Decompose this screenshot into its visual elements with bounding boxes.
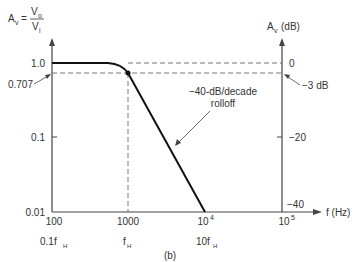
svg-text:i: i <box>39 27 41 34</box>
svg-text:0: 0 <box>289 58 295 69</box>
svg-text:o: o <box>38 12 42 19</box>
svg-text:=: = <box>21 13 27 24</box>
svg-text:V: V <box>31 6 38 17</box>
svg-text:rolloff: rolloff <box>211 98 235 109</box>
svg-text:10f: 10f <box>196 236 210 247</box>
svg-text:−20: −20 <box>289 132 306 143</box>
svg-text:−40: −40 <box>287 199 304 210</box>
svg-text:−40-dB/decade: −40-dB/decade <box>189 86 258 97</box>
x-tick-labels: 100 1000 10 10 <box>46 216 290 227</box>
x-axis-label: f (Hz) <box>326 207 350 218</box>
svg-text:0.1: 0.1 <box>31 132 45 143</box>
bode-plot: A v = V o V i A v (dB) 1.0 0.707 0.1 0.0… <box>0 0 358 262</box>
svg-text:H: H <box>63 243 67 249</box>
right-axis-label: A v (dB) <box>267 21 300 34</box>
svg-text:v: v <box>15 19 19 26</box>
figure-caption: (b) <box>164 250 176 261</box>
svg-text:f: f <box>123 236 126 247</box>
x-axis-arrow <box>313 209 322 215</box>
svg-text:4: 4 <box>210 214 214 221</box>
right-axis-arrow <box>279 38 285 46</box>
cutoff-point <box>126 71 131 76</box>
response-curve <box>52 63 205 212</box>
svg-text:10: 10 <box>197 216 209 227</box>
svg-text:v: v <box>274 27 278 34</box>
left-tick-labels: 1.0 0.707 0.1 0.01 <box>8 58 45 218</box>
svg-text:H: H <box>213 243 217 249</box>
svg-text:1.0: 1.0 <box>31 58 45 69</box>
left-axis-label: A v = V o V i <box>8 6 44 34</box>
svg-text:0.1f: 0.1f <box>40 236 57 247</box>
svg-text:−3 dB: −3 dB <box>302 80 329 91</box>
svg-text:5: 5 <box>291 214 295 221</box>
svg-text:10: 10 <box>278 216 290 227</box>
svg-text:H: H <box>127 243 131 249</box>
svg-text:(dB): (dB) <box>281 21 300 32</box>
x-secondary-labels: 0.1f H f H 10f H <box>40 236 217 249</box>
svg-text:0.707: 0.707 <box>8 79 33 90</box>
svg-text:A: A <box>267 21 274 32</box>
svg-text:A: A <box>8 13 15 24</box>
rolloff-annotation: −40-dB/decade rolloff <box>189 86 258 109</box>
svg-text:V: V <box>32 21 39 32</box>
svg-text:0.01: 0.01 <box>26 207 46 218</box>
left-axis-arrow <box>49 38 55 46</box>
svg-text:1000: 1000 <box>117 216 140 227</box>
svg-text:100: 100 <box>46 216 63 227</box>
